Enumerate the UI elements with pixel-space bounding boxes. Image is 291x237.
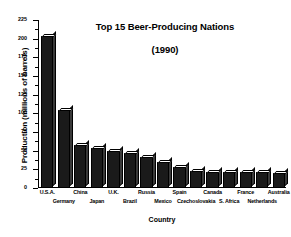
beer-production-bar-chart: Top 15 Beer-Producing Nations (1990) Pro… [0, 0, 291, 237]
bar-series [38, 20, 286, 188]
bar-front-face [41, 36, 53, 188]
bar-side-face [120, 147, 123, 186]
bar [190, 171, 202, 188]
y-tick-label: 25 [5, 165, 27, 171]
bar-front-face [140, 157, 152, 188]
y-tick-label: 175 [5, 53, 27, 59]
bar-top-face [191, 169, 206, 172]
bar-top-face [124, 151, 139, 154]
bar-top-face [224, 170, 239, 173]
bar [74, 145, 86, 188]
y-tick-label: 50 [5, 147, 27, 153]
x-tick-label: Netherlands [237, 198, 287, 204]
y-tick-label: 125 [5, 91, 27, 97]
x-axis-title: Country [38, 216, 286, 223]
bar-front-face [107, 151, 119, 188]
bar-front-face [74, 145, 86, 188]
bar [173, 167, 185, 188]
bar-front-face [124, 153, 136, 188]
bar-top-face [91, 146, 106, 149]
bar-front-face [273, 173, 285, 188]
bar [157, 162, 169, 188]
bar [41, 36, 53, 188]
bar [223, 172, 235, 188]
bar [273, 173, 285, 188]
bar [124, 153, 136, 188]
bar-side-face [53, 32, 56, 186]
bar-top-face [240, 170, 255, 173]
bar-front-face [206, 172, 218, 188]
bar-front-face [240, 172, 252, 188]
plot-area: 0255075100125150175200225 [38, 20, 286, 188]
bar-front-face [157, 162, 169, 188]
bar-top-face [158, 160, 173, 163]
bar [240, 172, 252, 188]
y-tick-label: 225 [5, 16, 27, 22]
bar-side-face [70, 106, 73, 186]
y-tick-label: 100 [5, 109, 27, 115]
y-tick-label: 200 [5, 35, 27, 41]
bar-front-face [173, 167, 185, 188]
bar [140, 157, 152, 188]
bar [107, 151, 119, 188]
bar-side-face [103, 143, 106, 186]
bar-front-face [190, 171, 202, 188]
y-tick-label: 75 [5, 128, 27, 134]
bar-front-face [256, 172, 268, 188]
bar [58, 110, 70, 188]
bar-front-face [223, 172, 235, 188]
x-tick-label: Australia [254, 189, 291, 195]
bar-side-face [86, 141, 89, 186]
bar [206, 172, 218, 188]
bar-top-face [273, 171, 288, 174]
bar-front-face [91, 148, 103, 188]
y-tick-label: 150 [5, 72, 27, 78]
x-axis-tick-labels: U.S.A.GermanyChinaJapanU.K.BrazilRussiaM… [38, 189, 286, 213]
bar [91, 148, 103, 188]
bar [256, 172, 268, 188]
bar-front-face [58, 110, 70, 188]
